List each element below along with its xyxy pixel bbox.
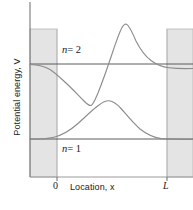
right-barrier-region (167, 29, 193, 177)
x-tick-label-origin: 0 (53, 180, 58, 191)
finite-well-figure: Potential energy, V Location, x 0 L n= 2… (0, 0, 193, 210)
quantum-state-label-n1: n= 1 (62, 143, 81, 154)
n-value-n1: = 1 (67, 143, 81, 154)
x-axis-label: Location, x (70, 182, 115, 192)
left-barrier-region (30, 29, 57, 177)
n-value-n2: = 2 (67, 44, 81, 55)
potential-well-plot (0, 0, 193, 210)
y-axis-label: Potential energy, V (12, 37, 22, 157)
quantum-state-label-n2: n= 2 (62, 44, 81, 55)
x-tick-label-length: L (163, 180, 169, 191)
